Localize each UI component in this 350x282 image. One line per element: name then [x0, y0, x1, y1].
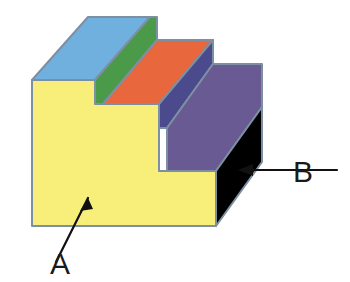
- figure-root: A B: [0, 0, 350, 282]
- label-a-text: A: [50, 247, 70, 280]
- label-b-text: B: [293, 155, 313, 188]
- label-b-leader: [238, 164, 337, 176]
- staircase-solid-diagram: A B: [0, 0, 350, 282]
